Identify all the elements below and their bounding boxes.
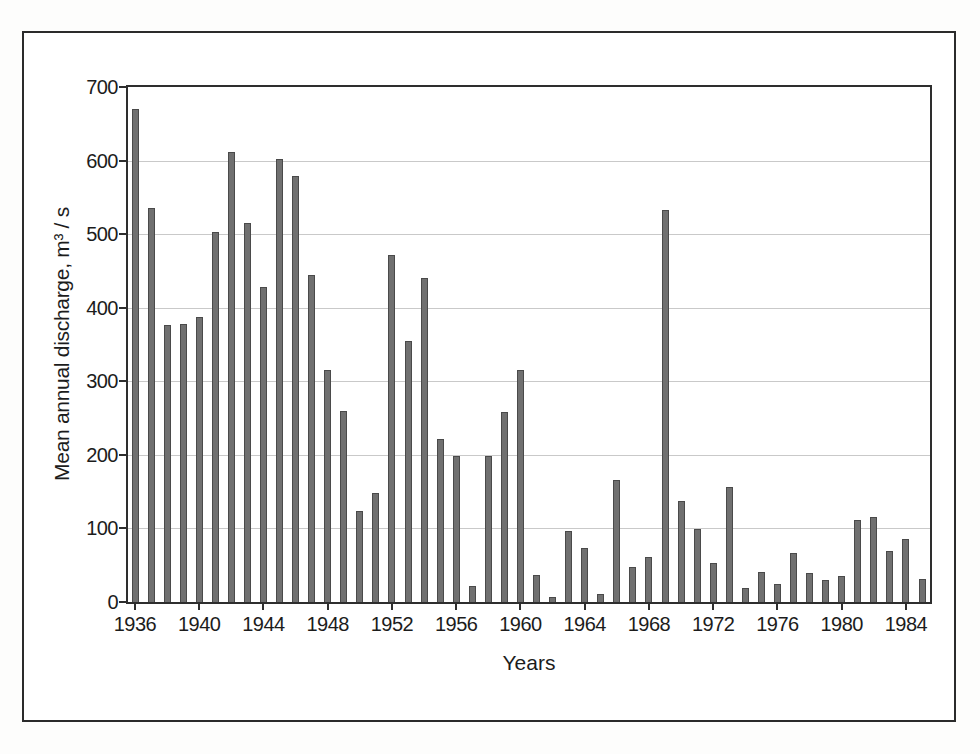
bar-1962 (549, 597, 556, 602)
y-tick-label-400: 400 (48, 297, 118, 319)
y-tick-mark-200 (119, 454, 126, 456)
bar-1977 (790, 553, 797, 602)
y-tick-mark-100 (119, 527, 126, 529)
bar-1955 (437, 439, 444, 602)
bar-1961 (533, 575, 540, 602)
bar-1974 (742, 588, 749, 602)
x-tick-mark-1940 (198, 604, 200, 610)
bar-1981 (854, 520, 861, 602)
bar-1942 (228, 152, 235, 602)
x-tick-mark-1972 (712, 604, 714, 610)
x-tick-mark-1948 (327, 604, 329, 610)
bar-1975 (758, 572, 765, 602)
bar-1954 (421, 278, 428, 602)
bar-1966 (613, 480, 620, 602)
bar-1964 (581, 548, 588, 602)
x-tick-mark-1960 (519, 604, 521, 610)
bar-1983 (886, 551, 893, 603)
bar-1982 (870, 517, 877, 602)
bar-1953 (405, 341, 412, 602)
bar-1971 (694, 529, 701, 602)
x-tick-mark-1944 (262, 604, 264, 610)
x-tick-mark-1936 (134, 604, 136, 610)
y-tick-label-200: 200 (48, 444, 118, 466)
bar-1938 (164, 325, 171, 602)
y-tick-label-700: 700 (48, 76, 118, 98)
bar-1939 (180, 324, 187, 602)
bar-1952 (388, 255, 395, 602)
bar-1945 (276, 159, 283, 602)
x-tick-mark-1976 (776, 604, 778, 610)
bar-1973 (726, 487, 733, 602)
y-tick-label-500: 500 (48, 223, 118, 245)
bar-1957 (469, 586, 476, 602)
bar-1958 (485, 456, 492, 602)
y-tick-label-0: 0 (48, 591, 118, 613)
bar-1946 (292, 176, 299, 602)
bar-1937 (148, 208, 155, 602)
bar-1979 (822, 580, 829, 602)
y-tick-mark-0 (119, 601, 126, 603)
bar-1956 (453, 456, 460, 602)
x-axis-title: Years (503, 651, 556, 675)
bar-1969 (662, 210, 669, 602)
bar-1972 (710, 563, 717, 602)
y-tick-mark-600 (119, 160, 126, 162)
gridline-600 (128, 161, 930, 162)
bar-1963 (565, 531, 572, 602)
y-axis-title: Mean annual discharge, m³ / s (50, 207, 74, 481)
bar-1950 (356, 511, 363, 602)
y-tick-mark-400 (119, 307, 126, 309)
bar-1941 (212, 232, 219, 602)
bar-1976 (774, 584, 781, 602)
bar-1985 (919, 579, 926, 602)
y-tick-mark-500 (119, 233, 126, 235)
x-tick-mark-1968 (648, 604, 650, 610)
bar-1959 (501, 412, 508, 602)
bar-1949 (340, 411, 347, 602)
bar-1978 (806, 573, 813, 602)
x-tick-mark-1984 (905, 604, 907, 610)
x-tick-label-1984: 1984 (866, 613, 946, 635)
x-tick-mark-1964 (584, 604, 586, 610)
bar-1967 (629, 567, 636, 602)
y-tick-label-100: 100 (48, 517, 118, 539)
bar-1940 (196, 317, 203, 602)
bar-1984 (902, 539, 909, 602)
x-tick-mark-1952 (391, 604, 393, 610)
bar-1947 (308, 275, 315, 602)
y-tick-label-600: 600 (48, 150, 118, 172)
bar-1968 (645, 557, 652, 602)
bar-1970 (678, 501, 685, 602)
plot-area (126, 85, 932, 604)
bar-1965 (597, 594, 604, 602)
bar-1948 (324, 370, 331, 602)
y-tick-mark-700 (119, 86, 126, 88)
bar-1960 (517, 370, 524, 602)
scanned-figure: Mean annual discharge, m³ / s Years 0100… (0, 0, 980, 754)
bar-1943 (244, 223, 251, 602)
bar-1936 (132, 109, 139, 602)
bar-1944 (260, 287, 267, 602)
x-tick-mark-1980 (841, 604, 843, 610)
bar-1951 (372, 493, 379, 602)
y-tick-mark-300 (119, 380, 126, 382)
bar-1980 (838, 576, 845, 602)
x-tick-mark-1956 (455, 604, 457, 610)
y-tick-label-300: 300 (48, 370, 118, 392)
